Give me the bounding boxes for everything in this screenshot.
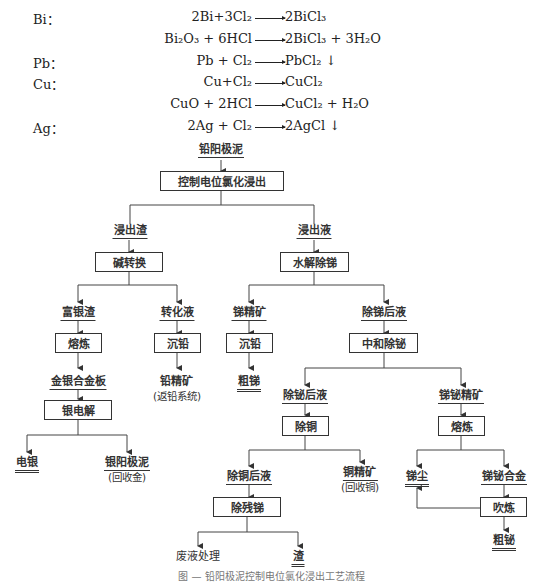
material-label: 锑铋合金 bbox=[481, 470, 527, 485]
material-label: 粗锑 bbox=[237, 375, 261, 392]
process-smelting-ag: 熔炼 bbox=[55, 333, 102, 353]
material-sb-bi-alloy: 锑铋合金 bbox=[481, 470, 527, 484]
process-ag-electrolysis: 银电解 bbox=[44, 400, 112, 420]
material-lead-anode-slime: 铅阳极泥 bbox=[198, 143, 244, 157]
material-label: 除铜后液 bbox=[226, 470, 272, 485]
process-pb-precipitation-1: 沉铅 bbox=[154, 333, 201, 353]
material-cu-concentrate: 铜精矿 (回收铜) bbox=[341, 466, 379, 494]
material-leach-liquor: 浸出液 bbox=[297, 224, 332, 238]
process-alkali-conversion: 碱转换 bbox=[95, 252, 163, 272]
material-label: 铅阳极泥 bbox=[198, 143, 244, 158]
process-residual-sb-removal: 除残锑 bbox=[213, 497, 281, 517]
material-label: 金银合金板 bbox=[50, 375, 107, 390]
material-sb-bi-concentrate: 锑铋精矿 bbox=[438, 389, 484, 403]
material-au-ag-alloy-plate: 金银合金板 bbox=[50, 375, 107, 389]
material-note: (返铅系统) bbox=[153, 389, 201, 403]
material-slag: 渣 bbox=[292, 550, 305, 564]
material-label: 锑尘 bbox=[405, 470, 429, 487]
process-pb-precipitation-2: 沉铅 bbox=[226, 333, 273, 353]
process-blowing: 吹炼 bbox=[480, 497, 527, 517]
material-label: 渣 bbox=[292, 550, 305, 567]
material-sb-concentrate: 锑精矿 bbox=[232, 306, 267, 320]
material-label: 废液处理 bbox=[176, 550, 220, 563]
process-smelting-sb: 熔炼 bbox=[438, 416, 485, 436]
material-crude-sb: 粗锑 bbox=[237, 375, 261, 389]
material-sb-dust: 锑尘 bbox=[405, 470, 429, 484]
material-pb-concentrate: 铅精矿 (返铅系统) bbox=[153, 375, 201, 403]
material-after-sb-liquor: 除锑后液 bbox=[361, 306, 407, 320]
material-crude-bi: 粗铋 bbox=[492, 534, 516, 548]
material-ag-anode-slime: 银阳极泥 (回收金) bbox=[104, 456, 150, 484]
material-leach-residue: 浸出渣 bbox=[113, 224, 148, 238]
material-electro-ag: 电银 bbox=[15, 456, 39, 470]
material-label: 电银 bbox=[15, 456, 39, 473]
material-waste-treatment: 废液处理 bbox=[176, 550, 220, 564]
material-label: 银阳极泥 bbox=[104, 456, 150, 471]
material-after-cu-liquor: 除铜后液 bbox=[226, 470, 272, 484]
material-note: (回收金) bbox=[104, 470, 150, 484]
material-label: 浸出渣 bbox=[113, 224, 148, 239]
material-ag-rich-residue: 富银渣 bbox=[61, 306, 96, 320]
material-label: 铜精矿 bbox=[342, 466, 377, 481]
material-after-bi-liquor: 除铋后液 bbox=[282, 389, 328, 403]
material-conversion-liquor: 转化液 bbox=[160, 306, 195, 320]
material-label: 锑铋精矿 bbox=[438, 389, 484, 404]
process-cu-removal: 除铜 bbox=[282, 416, 329, 436]
process-neutralize-bi-removal: 中和除铋 bbox=[349, 333, 418, 353]
material-label: 除锑后液 bbox=[361, 306, 407, 321]
material-label: 富银渣 bbox=[61, 306, 96, 321]
material-label: 粗铋 bbox=[492, 534, 516, 551]
material-note: (回收铜) bbox=[341, 480, 379, 494]
figure-caption: 图 — 铅阳极泥控制电位氯化浸出工艺流程 bbox=[0, 568, 543, 583]
process-hydrolysis-sb-removal: 水解除锑 bbox=[280, 252, 349, 272]
material-label: 铅精矿 bbox=[160, 375, 193, 388]
material-label: 除铋后液 bbox=[282, 389, 328, 404]
material-label: 锑精矿 bbox=[232, 306, 267, 321]
material-label: 转化液 bbox=[160, 306, 195, 321]
material-label: 浸出液 bbox=[297, 224, 332, 239]
process-controlled-potential-chlorination-leach: 控制电位氯化浸出 bbox=[160, 171, 284, 191]
